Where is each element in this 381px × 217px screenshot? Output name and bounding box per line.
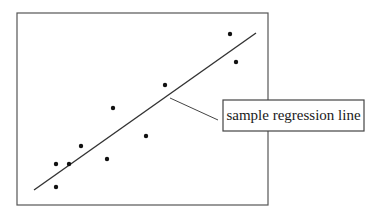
data-point [79, 144, 83, 148]
callout-leader-line [170, 98, 218, 120]
data-point [228, 32, 232, 36]
scatter-diagram: sample regression line [0, 0, 381, 217]
data-point [67, 162, 71, 166]
data-point [234, 60, 238, 64]
data-point [105, 157, 109, 161]
data-point [111, 106, 115, 110]
callout-label: sample regression line [226, 107, 360, 123]
data-point [54, 162, 58, 166]
data-point [54, 185, 58, 189]
data-point [144, 134, 148, 138]
data-point [163, 83, 167, 87]
